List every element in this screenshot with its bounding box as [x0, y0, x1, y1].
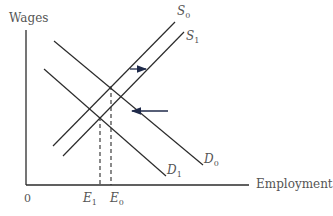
demand-curve-d1 — [44, 69, 166, 176]
y-axis-label: Wages — [9, 11, 48, 25]
e1-label: E1 — [83, 191, 97, 207]
demand-curve-d0 — [54, 41, 203, 165]
s1-label: S1 — [186, 29, 199, 45]
supply-curve-s0 — [53, 22, 175, 146]
supply-curve-s1 — [63, 32, 184, 156]
labor-market-diagram: Wages Employment 0 S0 S1 D0 D1 E1 E0 — [0, 0, 333, 216]
s0-label: S0 — [177, 4, 190, 20]
d0-label: D0 — [204, 152, 219, 168]
origin-label: 0 — [24, 192, 31, 205]
d1-label: D1 — [167, 163, 182, 179]
x-axis-label: Employment — [256, 177, 333, 191]
e0-label: E0 — [110, 191, 124, 207]
